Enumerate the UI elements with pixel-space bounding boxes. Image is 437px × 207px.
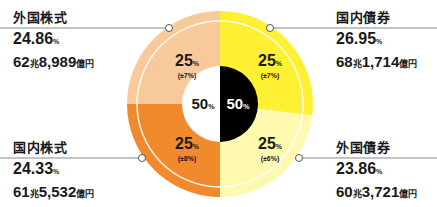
label-foreign-bond: 外国債券 23.86% 60兆3,721億円 (336, 140, 417, 204)
center-label-bond: 50% (222, 95, 254, 112)
label-domestic-bond: 国内債券 26.95% 68兆1,714億円 (336, 10, 417, 74)
center-label-stock: 50% (187, 95, 219, 112)
segment-label-foreign-stock: 25% (±7%) (162, 52, 212, 79)
leader-dot-icon (166, 25, 173, 32)
segment-label-domestic-bond: 25% (±7%) (245, 52, 295, 79)
label-domestic-stock: 国内株式 24.33% 61兆5,532億円 (13, 140, 94, 204)
label-foreign-stock: 外国株式 24.86% 62兆8,989億円 (13, 10, 94, 74)
leader-dot-icon (139, 155, 146, 162)
leader-dot-icon (296, 155, 303, 162)
leader-dot-icon (267, 25, 274, 32)
segment-label-foreign-bond: 25% (±6%) (245, 135, 295, 162)
segment-label-domestic-stock: 25% (±8%) (162, 135, 212, 162)
